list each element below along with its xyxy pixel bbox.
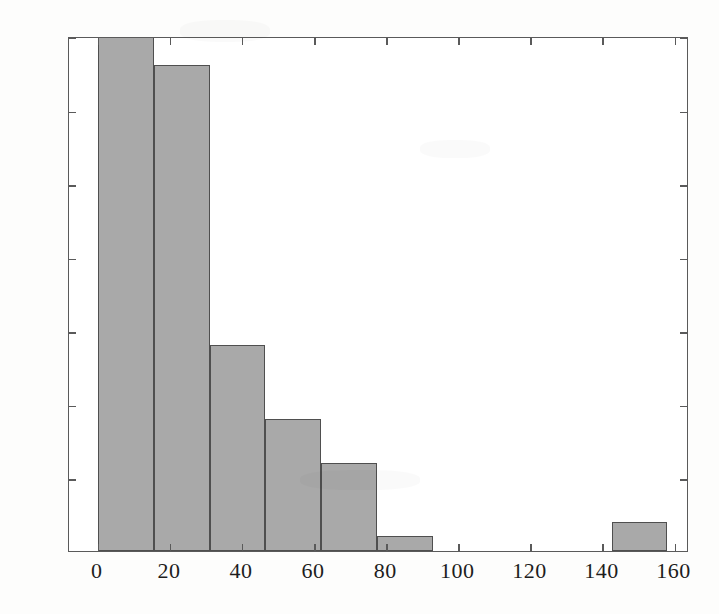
x-axis-tick-top: [602, 38, 603, 45]
x-axis-tick: [242, 544, 243, 551]
x-axis-tick-label: 0: [91, 558, 103, 584]
y-axis-tick-right: [680, 259, 687, 260]
x-axis-tick: [314, 544, 315, 551]
x-axis-tick-top: [98, 38, 99, 45]
x-axis-tick: [530, 544, 531, 551]
x-axis-tick-label: 160: [656, 558, 691, 584]
y-axis-tick-right: [680, 479, 687, 480]
y-axis-tick: [69, 406, 76, 407]
y-axis-tick: [69, 112, 76, 113]
x-axis-tick-label: 20: [157, 558, 180, 584]
y-axis-tick-right: [680, 38, 687, 39]
plot-area: [68, 37, 688, 552]
y-axis-tick: [69, 185, 76, 186]
x-axis-tick: [98, 544, 99, 551]
x-axis-tick-top: [170, 38, 171, 45]
y-axis-tick: [69, 259, 76, 260]
x-axis-tick: [170, 544, 171, 551]
x-axis-tick: [602, 544, 603, 551]
histogram-bar: [265, 419, 321, 551]
x-axis-tick-label: 140: [584, 558, 619, 584]
x-axis-tick-top: [314, 38, 315, 45]
histogram-bar: [321, 463, 377, 551]
x-axis-tick-label: 40: [230, 558, 253, 584]
histogram-bar: [98, 37, 154, 551]
x-axis-tick-top: [458, 38, 459, 45]
x-axis-tick: [458, 544, 459, 551]
x-axis-tick-label: 120: [512, 558, 547, 584]
bars-layer: [69, 38, 687, 551]
x-axis-tick-top: [675, 38, 676, 45]
y-axis-tick-right: [680, 332, 687, 333]
histogram-chart: 020406080100120140160 05101520253035: [0, 0, 719, 614]
x-axis-tick-top: [242, 38, 243, 45]
histogram-bar: [210, 345, 266, 551]
x-axis-tick-top: [530, 38, 531, 45]
y-axis-tick-right: [680, 185, 687, 186]
x-axis-tick-label: 60: [302, 558, 325, 584]
histogram-bar: [154, 65, 210, 551]
y-axis-tick: [69, 332, 76, 333]
x-axis-tick-label: 100: [440, 558, 475, 584]
x-axis-tick: [675, 544, 676, 551]
y-axis-tick-right: [680, 406, 687, 407]
y-axis-tick-right: [680, 112, 687, 113]
histogram-bar: [612, 522, 668, 551]
x-axis-tick: [386, 544, 387, 551]
x-axis-tick-top: [386, 38, 387, 45]
x-axis-tick-label: 80: [374, 558, 397, 584]
y-axis-tick: [69, 479, 76, 480]
y-axis-tick: [69, 38, 76, 39]
